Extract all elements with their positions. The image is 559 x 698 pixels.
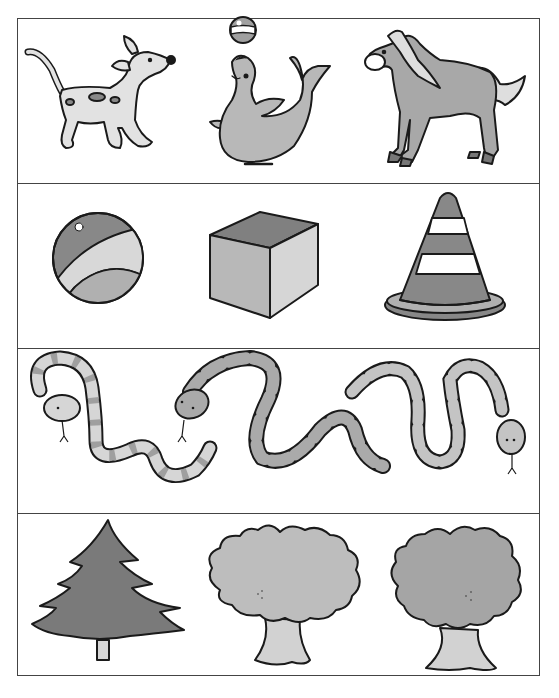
ball-icon — [50, 213, 150, 320]
horse-icon — [365, 31, 525, 166]
cube-icon — [210, 212, 318, 318]
deciduous-tree-icon-1 — [209, 525, 359, 664]
deciduous-tree-icon-2 — [391, 527, 520, 670]
dog-icon — [28, 36, 175, 148]
seal-icon — [210, 17, 330, 164]
illustrations — [0, 0, 559, 698]
pine-tree-icon — [32, 520, 184, 660]
traffic-cone-icon — [385, 193, 505, 320]
